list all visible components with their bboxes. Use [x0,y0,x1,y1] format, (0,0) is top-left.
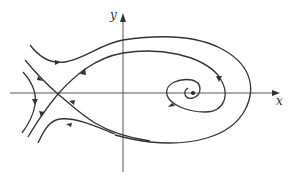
trajectory-separatrix-loop [58,51,225,112]
arrow-icon [32,99,38,105]
y-axis-arrow-icon [120,13,126,22]
x-axis-label: x [276,94,283,108]
trajectory-top-left [30,37,251,143]
spiral-focus-point [191,91,195,95]
trajectory-bottom-left [38,119,115,143]
arrow-icon [66,123,72,127]
y-axis-label: y [110,8,117,22]
trajectory-stable-upper-left [25,60,58,94]
trajectory-left-bend [22,72,35,133]
phase-portrait [0,0,298,182]
trajectories [22,37,251,143]
